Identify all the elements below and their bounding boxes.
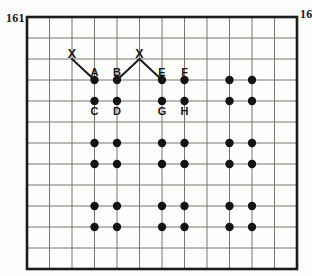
dot-c9-r3: [225, 76, 233, 84]
x-mark-1: X: [68, 47, 77, 61]
dot-c10-r4: [248, 97, 256, 105]
dot-c7-r9: [180, 202, 188, 210]
dot-label-C: C: [91, 105, 99, 117]
dot-c4-r10: [113, 223, 121, 231]
dot-c4-r9: [113, 202, 121, 210]
dot-lattice-figure: ABEFCDGHXX: [0, 0, 312, 276]
dot-c9-r4: [225, 97, 233, 105]
dot-c4-r7: [113, 160, 121, 168]
dot-label-E: E: [158, 66, 165, 78]
dot-c10-r6: [248, 139, 256, 147]
scanned-figure-page: 161 16 ABEFCDGHXX: [0, 0, 312, 276]
dot-c10-r10: [248, 223, 256, 231]
dot-label-G: G: [158, 105, 167, 117]
dot-c6-r10: [158, 223, 166, 231]
dot-c9-r9: [225, 202, 233, 210]
dot-c3-r4: [90, 97, 98, 105]
dot-c9-r7: [225, 160, 233, 168]
dot-label-H: H: [181, 105, 189, 117]
dot-c6-r7: [158, 160, 166, 168]
dot-c9-r10: [225, 223, 233, 231]
dot-c3-r7: [90, 160, 98, 168]
x-mark-2: X: [135, 47, 144, 61]
dot-c6-r9: [158, 202, 166, 210]
dot-c3-r6: [90, 139, 98, 147]
dot-c10-r7: [248, 160, 256, 168]
dot-label-D: D: [113, 105, 121, 117]
dot-c4-r6: [113, 139, 121, 147]
dot-label-F: F: [181, 66, 188, 78]
dot-c7-r10: [180, 223, 188, 231]
dot-c6-r4: [158, 97, 166, 105]
dot-c10-r9: [248, 202, 256, 210]
dot-c6-r6: [158, 139, 166, 147]
dot-c7-r4: [180, 97, 188, 105]
dot-c7-r6: [180, 139, 188, 147]
dot-label-A: A: [91, 66, 99, 78]
dot-c10-r3: [248, 76, 256, 84]
dot-c3-r9: [90, 202, 98, 210]
dot-c7-r7: [180, 160, 188, 168]
dot-c4-r4: [113, 97, 121, 105]
dot-c9-r6: [225, 139, 233, 147]
dot-c3-r10: [90, 223, 98, 231]
dot-label-B: B: [113, 66, 121, 78]
